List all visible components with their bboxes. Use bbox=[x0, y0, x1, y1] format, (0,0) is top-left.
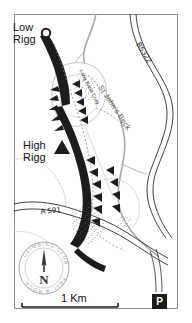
label-high-rigg: High Rigg bbox=[23, 140, 46, 163]
north-needle-icon bbox=[42, 249, 47, 272]
label-high-rigg-line2: Rigg bbox=[23, 152, 46, 164]
label-low-rigg-line1: Low bbox=[13, 22, 36, 34]
label-low-rigg: Low Rigg bbox=[13, 22, 36, 45]
compass-rose-club-logo: N CLIMBING CLUB FELL & ROCK bbox=[17, 240, 71, 296]
map-figure: N CLIMBING CLUB FELL & ROCK Low Rigg Hig… bbox=[0, 0, 192, 323]
label-high-rigg-line1: High bbox=[23, 140, 46, 152]
compass-north-letter: N bbox=[39, 272, 49, 287]
label-low-rigg-line2: Rigg bbox=[13, 34, 36, 46]
summit-circle-marker-low-rigg bbox=[42, 29, 50, 37]
parking-marker: P bbox=[152, 294, 167, 309]
scale-bar-label: 1 Km bbox=[61, 293, 87, 305]
parking-icon: P bbox=[156, 297, 163, 307]
